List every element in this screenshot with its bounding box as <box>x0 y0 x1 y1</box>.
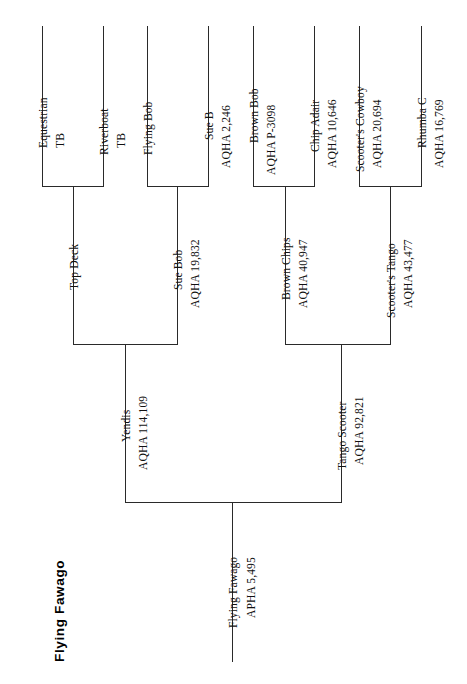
gen3-node-1-name: Sue Bob <box>173 250 185 290</box>
gen2-bracket-connector <box>125 502 342 503</box>
gen3-bracket2-connector <box>285 344 391 345</box>
gen3-node-3-name: Scooter's Tango <box>386 243 398 318</box>
gen4-node-3-name: Sue B <box>204 111 216 140</box>
gen4-node-4-registry: AQHA P-3098 <box>266 105 278 175</box>
gen1-subject-name: Flying Fawago <box>228 557 240 628</box>
gen4-node-5-name: Chip Adair <box>310 100 322 152</box>
gen4-node-7-name: Rhumba C <box>417 97 429 148</box>
gen4-node-0-registry: TB <box>55 133 67 148</box>
page-title: Flying Fawago <box>52 560 67 662</box>
gen3-node-2-registry: AQHA 40,947 <box>298 239 310 308</box>
gen2-node-1-name: Tango Scooter <box>337 402 349 470</box>
gen4-node-0-name: Equestrian <box>38 97 50 148</box>
gen4-node-1-name: Riverboat <box>99 108 111 155</box>
gen3-node-1-registry: AQHA 19,832 <box>190 239 202 308</box>
gen4-node-7-registry: AQHA 16,769 <box>434 99 446 168</box>
gen4-bracket1-right-line <box>103 26 104 186</box>
gen4-node-2-name: Flying Bob <box>143 101 155 155</box>
gen4-node-5-registry: AQHA 10,646 <box>327 99 339 168</box>
gen4-node-4-name: Brown Bob <box>249 88 261 143</box>
gen3-node-3-registry: AQHA 43,477 <box>403 239 415 308</box>
gen4-node-1-registry: TB <box>116 133 128 148</box>
gen2-node-0-registry: AQHA 114,109 <box>138 396 150 470</box>
gen4-node-6-name: Scooter's Cowboy <box>355 86 367 172</box>
gen4-node-3-registry: AQHA 2,246 <box>221 105 233 168</box>
gen2-node-1-registry: AQHA 92,821 <box>354 396 366 465</box>
gen4-bracket2-connector <box>147 186 209 187</box>
gen2-node-0-name: Yendis <box>121 410 133 442</box>
gen1-subject-registry: APHA 5,495 <box>246 557 258 618</box>
gen4-bracket3-connector <box>253 186 315 187</box>
pedigree-chart: Equestrian TB Riverboat TB Flying Bob Su… <box>0 0 467 684</box>
gen4-bracket2-right-line <box>208 26 209 186</box>
gen4-node-6-registry: AQHA 20,694 <box>372 99 384 168</box>
gen3-node-2-name: Brown Chips <box>281 237 293 300</box>
gen3-node-0-name: Top Deck <box>69 244 81 290</box>
